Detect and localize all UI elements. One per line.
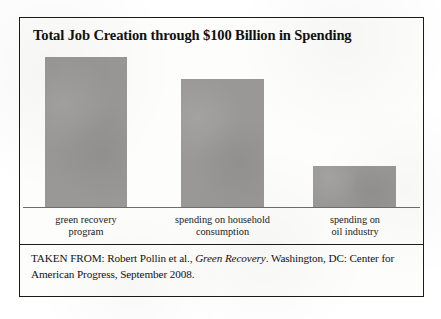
plot-area: 2 million jobs 1.7 million jobs 542,000 … xyxy=(20,56,422,208)
category-label-spending-on-household-consumption: spending on household consumption xyxy=(160,214,285,239)
figure-container: Total Job Creation through $100 Billion … xyxy=(19,17,424,297)
x-axis-line xyxy=(23,207,420,209)
citation-divider xyxy=(20,244,423,245)
bar-rect xyxy=(45,57,127,207)
bar-rect xyxy=(313,166,396,207)
category-label-green-recovery-program: green recovery program xyxy=(36,214,136,239)
citation-prefix: TAKEN FROM: Robert Pollin et al., xyxy=(31,252,195,264)
bar-rect xyxy=(181,79,264,207)
citation-source-title: Green Recovery xyxy=(195,252,266,264)
citation-text: TAKEN FROM: Robert Pollin et al., Green … xyxy=(31,251,416,282)
chart-title: Total Job Creation through $100 Billion … xyxy=(33,27,352,44)
category-label-spending-on-oil-industry: spending on oil industry xyxy=(305,214,405,239)
